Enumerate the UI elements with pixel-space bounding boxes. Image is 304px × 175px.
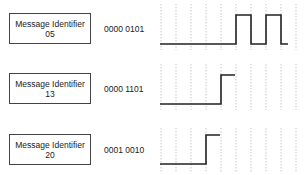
waveform-20 xyxy=(160,135,220,164)
grid-lines xyxy=(161,4,296,172)
waveform-05 xyxy=(160,15,288,44)
timing-waveforms xyxy=(0,0,304,175)
waveform-13 xyxy=(160,75,235,104)
